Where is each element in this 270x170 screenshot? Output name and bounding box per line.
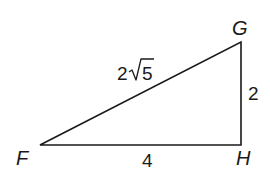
triangle-diagram: G H F 2 5 2 4 — [0, 0, 270, 170]
side-label-fg: 2 5 — [117, 59, 154, 84]
side-fg-radicand: 5 — [142, 63, 153, 84]
side-label-gh: 2 — [248, 83, 259, 104]
vertex-label-h: H — [236, 147, 251, 169]
vertex-label-f: F — [16, 147, 30, 169]
vertex-label-g: G — [232, 17, 248, 39]
side-fg-coefficient: 2 — [117, 63, 128, 84]
side-label-fh: 4 — [142, 150, 153, 170]
triangle-fgh — [40, 42, 241, 145]
